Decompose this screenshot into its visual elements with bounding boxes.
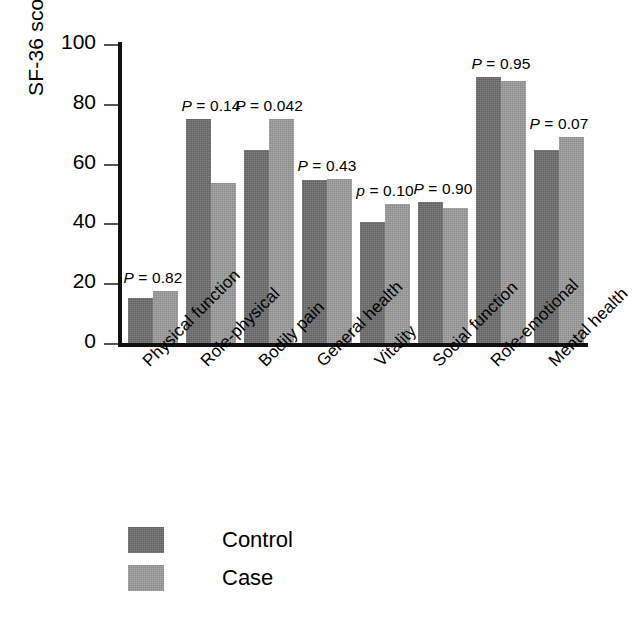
p-value: 0.07 — [558, 115, 589, 132]
y-axis-tick-label: 80 — [26, 90, 96, 114]
y-axis-tick-label: 60 — [26, 150, 96, 174]
p-symbol: P — [298, 157, 308, 174]
p-value-label: P = 0.07 — [517, 115, 601, 133]
p-value: 0.82 — [152, 269, 183, 286]
p-value-label: P = 0.82 — [111, 269, 195, 287]
p-value: 0.90 — [442, 180, 473, 197]
bar-case — [559, 137, 584, 343]
y-axis-tick-label: 100 — [26, 30, 96, 54]
p-value: 0.95 — [500, 55, 531, 72]
y-axis-tick-label: 0 — [26, 329, 96, 353]
p-symbol: P — [472, 55, 482, 72]
p-value: 0.042 — [264, 97, 303, 114]
legend-item: Case — [128, 559, 293, 597]
y-axis-tick-mark — [104, 44, 118, 46]
y-axis-tick-mark — [104, 223, 118, 225]
bar-case — [211, 183, 236, 343]
p-symbol: p — [356, 182, 365, 199]
p-value-label: P = 0.43 — [285, 157, 369, 175]
p-value-label: P = 0.042 — [227, 97, 311, 115]
y-axis-tick-label: 40 — [26, 209, 96, 233]
bar-control — [418, 202, 443, 343]
p-symbol: P — [235, 97, 245, 114]
p-value-label: P = 0.95 — [459, 55, 543, 73]
chart-legend: ControlCase — [128, 521, 293, 597]
p-value: 0.43 — [326, 157, 357, 174]
legend-item: Control — [128, 521, 293, 559]
bar-control — [128, 298, 153, 343]
legend-swatch-control — [128, 527, 164, 553]
legend-label: Control — [222, 527, 293, 553]
y-axis-tick-mark — [104, 343, 118, 345]
bar-case — [327, 179, 352, 343]
y-axis-tick-mark — [104, 104, 118, 106]
y-axis-tick-mark — [104, 164, 118, 166]
p-value-label: P = 0.90 — [401, 180, 485, 198]
p-symbol: P — [530, 115, 540, 132]
legend-swatch-case — [128, 565, 164, 591]
p-symbol: P — [124, 269, 134, 286]
p-symbol: P — [414, 180, 424, 197]
legend-label: Case — [222, 565, 273, 591]
y-axis-tick-label: 20 — [26, 269, 96, 293]
p-symbol: P — [182, 97, 192, 114]
